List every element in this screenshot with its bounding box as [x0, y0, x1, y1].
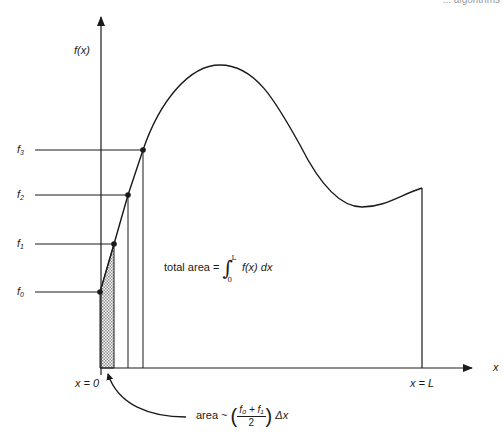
f3-label: f3 [17, 143, 24, 156]
x-start-label: x = 0 [75, 377, 99, 389]
x-end-label: x = L [410, 377, 434, 389]
sample-point-f0 [97, 289, 103, 295]
x-axis-label: x [493, 361, 499, 373]
first-trapezoid-area [100, 244, 114, 368]
fraction: f₀ + f₁2 [237, 404, 265, 429]
total-area-label: total area = ∫L0 f(x) dx [164, 256, 272, 280]
f2-label: f2 [17, 188, 24, 201]
sample-point-f2 [125, 192, 131, 198]
sample-point-f3 [140, 147, 146, 153]
sample-point-f1 [111, 241, 117, 247]
trapezoid-pointer-arrow [108, 374, 186, 417]
f0-label: f0 [17, 285, 24, 298]
y-axis-label: f(x) [74, 44, 90, 56]
trapezoid-area-label: area ~ (f₀ + f₁2) Δx [196, 404, 288, 429]
f1-label: f1 [17, 237, 24, 250]
integral-sign: ∫L0 [222, 256, 232, 280]
